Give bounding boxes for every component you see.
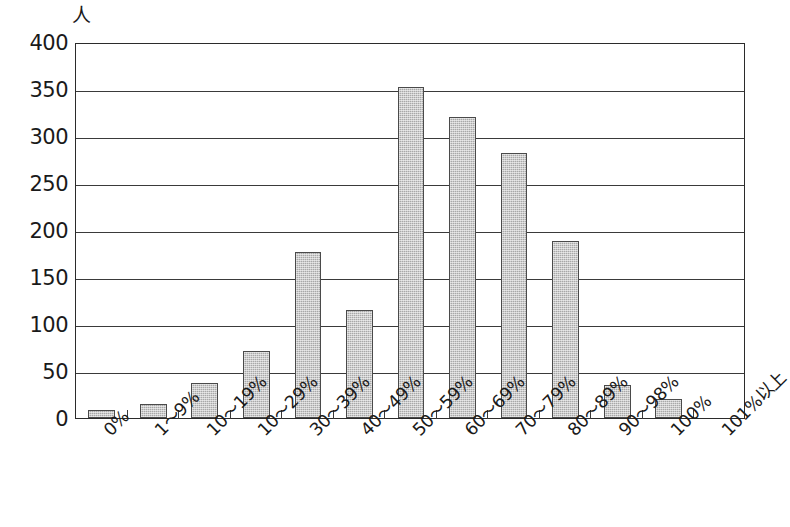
y-axis-tick-label: 250 bbox=[12, 174, 68, 195]
bars-group bbox=[76, 44, 744, 418]
y-axis-tick-label: 100 bbox=[12, 315, 68, 336]
y-axis-tick-labels: 400350300250200150100500 bbox=[8, 43, 68, 419]
y-axis-tick-label: 350 bbox=[12, 80, 68, 101]
y-axis-tick-label: 200 bbox=[12, 221, 68, 242]
plot-area bbox=[75, 43, 745, 419]
bar bbox=[398, 87, 425, 418]
y-axis-tick-label: 300 bbox=[12, 127, 68, 148]
x-axis-category-labels: 0%1〜9%10〜19%10〜29%30〜39%40〜49%50〜59%60〜6… bbox=[0, 419, 768, 527]
y-axis-tick-label: 150 bbox=[12, 268, 68, 289]
y-axis-tick-label: 400 bbox=[12, 33, 68, 54]
y-axis-tick-label: 50 bbox=[12, 362, 68, 383]
y-axis-unit-label: 人 bbox=[72, 6, 91, 25]
